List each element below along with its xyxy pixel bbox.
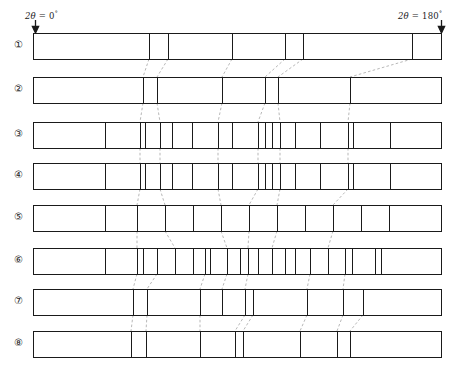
peak-connector [328,231,333,248]
diffraction-row-1[interactable] [34,34,442,60]
connector-group [131,315,363,331]
peak-connector [249,189,258,205]
axis-label-right: 2θ = 180° [398,9,442,21]
peak-connector [278,59,303,77]
peak-connector [350,59,412,77]
peak-connector [218,189,221,205]
peak-connector [258,103,265,122]
diffraction-strip[interactable] [34,332,442,358]
peak-connector [131,315,133,331]
peak-connector [243,315,253,331]
peak-connector [165,231,175,248]
peak-connector [157,59,168,77]
diffraction-strip[interactable] [34,123,442,149]
peak-connector [333,189,348,205]
peak-connector [278,103,280,122]
peak-connector [200,274,205,289]
down-arrow-icon-right [437,20,446,33]
diffraction-row-8[interactable] [34,332,442,358]
peak-connector [343,274,345,289]
diffraction-row-6[interactable] [34,249,442,275]
diffraction-row-5[interactable] [34,206,442,232]
diffraction-strip[interactable] [34,249,442,275]
peak-connector [350,315,363,331]
peak-connector [133,274,137,289]
connector-group [143,59,412,77]
peak-connector [147,274,157,289]
peak-connector [307,274,310,289]
diffraction-strip[interactable] [34,78,442,104]
peak-connector [272,231,277,248]
connector-group [140,148,348,163]
diffraction-strip[interactable] [34,164,442,190]
row-label-①: ① [10,39,26,50]
connector-group [137,231,333,248]
diffraction-row-2[interactable] [34,78,442,104]
row-label-⑥: ⑥ [10,254,26,265]
row-label-⑤: ⑤ [10,211,26,222]
diffraction-row-3[interactable] [34,123,442,149]
row-label-③: ③ [10,128,26,139]
peak-connector [235,315,245,331]
connector-group [140,103,350,122]
peak-connector [160,189,165,205]
diffraction-strip[interactable] [34,34,442,60]
row-label-⑦: ⑦ [10,295,26,306]
peak-connector [277,189,280,205]
peak-connector [137,189,140,205]
row-label-⑧: ⑧ [10,337,26,348]
peak-connector [245,274,248,289]
row-label-②: ② [10,83,26,94]
peak-connector [348,103,350,122]
axis-label-left: 2θ = 0° [25,9,58,21]
diffraction-row-7[interactable] [34,290,442,316]
peak-connector [222,59,232,77]
peak-connector [157,103,160,122]
peak-connector [146,315,147,331]
peak-connector [300,315,307,331]
peak-connector [140,103,143,122]
peak-connector [222,274,227,289]
diffraction-strip[interactable] [34,206,442,232]
peak-connector [248,231,249,248]
diffraction-figure: 2θ = 0° 2θ = 180° ①②③④⑤⑥⑦⑧ [0,0,463,372]
down-arrow-icon-left [31,20,40,33]
row-label-④: ④ [10,169,26,180]
diffraction-strips-canvas [0,0,463,372]
peak-connector [337,315,343,331]
connector-group [137,189,348,205]
diffraction-row-4[interactable] [34,164,442,190]
diffraction-strip[interactable] [34,290,442,316]
peak-connector [221,231,227,248]
peak-connector [143,59,149,77]
peak-connector [218,103,222,122]
connector-group [133,274,345,289]
